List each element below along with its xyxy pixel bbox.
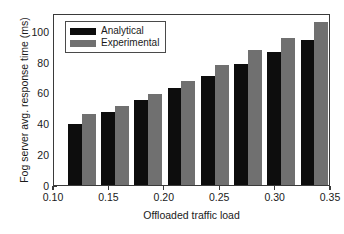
x-tick-label-2: 0.20: [144, 192, 184, 203]
bar-experimental-3: [181, 81, 195, 185]
x-tick-mark-2: [163, 186, 164, 190]
legend-swatch-analytical: [70, 28, 96, 35]
bar-analytical-2: [134, 100, 148, 185]
x-tick-mark-5: [329, 186, 330, 190]
y-tick-label-0: 0: [43, 181, 49, 192]
x-tick-label-4: 0.30: [255, 192, 295, 203]
bar-experimental-6: [281, 38, 295, 185]
x-tick-mark-1: [108, 186, 109, 190]
bar-analytical-0: [68, 124, 82, 185]
bar-experimental-4: [215, 65, 229, 185]
y-tick-label-3: 60: [37, 88, 49, 99]
x-tick-mark-3: [219, 186, 220, 190]
y-tick-label-2: 40: [37, 119, 49, 130]
bar-analytical-7: [301, 40, 315, 185]
chart-legend: Analytical Experimental: [65, 21, 166, 53]
y-tick-label-4: 80: [37, 58, 49, 69]
legend-entry-analytical: Analytical: [70, 25, 159, 37]
y-tick-label-1: 20: [37, 150, 49, 161]
bar-analytical-6: [267, 52, 281, 185]
x-tick-label-1: 0.15: [88, 192, 128, 203]
bar-analytical-5: [234, 64, 248, 185]
bar-analytical-4: [201, 76, 215, 185]
legend-swatch-experimental: [70, 40, 96, 47]
y-axis-label: Fog server avg. response time (ms): [18, 10, 30, 190]
x-tick-label-0: 0.10: [33, 192, 73, 203]
chart-figure: Fog server avg. response time (ms) 02040…: [0, 0, 344, 234]
x-axis-label: Offloaded traffic load: [53, 209, 330, 221]
y-tick-label-5: 100: [31, 27, 49, 38]
bar-experimental-2: [148, 94, 162, 185]
bar-experimental-1: [115, 106, 129, 185]
legend-entry-experimental: Experimental: [70, 37, 159, 49]
bar-analytical-3: [168, 88, 182, 185]
legend-label-analytical: Analytical: [101, 25, 144, 37]
x-tick-mark-0: [52, 186, 53, 190]
x-tick-label-3: 0.25: [199, 192, 239, 203]
legend-label-experimental: Experimental: [101, 37, 159, 49]
x-tick-mark-4: [274, 186, 275, 190]
bar-analytical-1: [101, 112, 115, 185]
bar-experimental-5: [248, 50, 262, 185]
plot-area: Analytical Experimental: [53, 14, 330, 186]
x-tick-label-5: 0.35: [310, 192, 344, 203]
bar-experimental-7: [314, 22, 328, 185]
bar-experimental-0: [82, 114, 96, 185]
